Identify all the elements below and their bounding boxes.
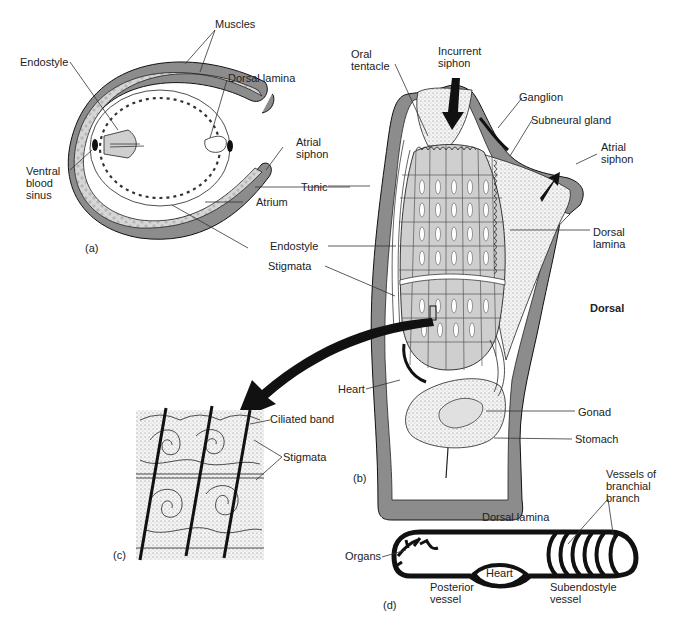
label-dorsal-lamina-b-2: lamina (593, 238, 626, 250)
label-vessels-2: branchial (606, 480, 651, 492)
label-posterior-vessel-2: vessel (430, 593, 461, 605)
label-dorsal-lamina-d: Dorsal lamina (482, 511, 550, 523)
panel-tag-c: (c) (113, 549, 126, 561)
label-atrial-siphon-a-2: siphon (296, 148, 328, 160)
label-incurrent-siphon-2: siphon (438, 57, 470, 69)
label-incurrent-siphon-1: Incurrent (438, 45, 481, 57)
label-heart-b: Heart (338, 383, 365, 395)
label-endostyle-a: Endostyle (20, 56, 68, 68)
label-dorsal-lamina-a: Dorsal lamina (228, 72, 296, 84)
label-heart-d: Heart (486, 567, 513, 579)
label-ciliated-band: Ciliated band (270, 413, 334, 425)
pharyngeal-basket (392, 140, 505, 370)
label-ventral-blood-sinus-3: sinus (26, 189, 52, 201)
panel-c-stigmata-detail: Ciliated band Stigmata (c) (113, 406, 334, 561)
label-oral-tentacle-2: tentacle (351, 60, 390, 72)
label-dorsal-lamina-b-1: Dorsal (593, 226, 625, 238)
label-organs: Organs (345, 550, 382, 562)
dorsal-lamina-a (205, 136, 227, 152)
label-muscles: Muscles (215, 18, 256, 30)
label-endostyle-b: Endostyle (270, 240, 318, 252)
panel-tag-b: (b) (353, 472, 366, 484)
label-dorsal-orientation: Dorsal (590, 302, 624, 314)
label-vessels-1: Vessels of (606, 468, 657, 480)
label-stomach: Stomach (575, 433, 618, 445)
panel-b-whole-animal: Oral tentacle Incurrent siphon Ganglion … (236, 45, 633, 520)
label-atrium: Atrium (256, 196, 288, 208)
label-vessels-3: branch (606, 492, 640, 504)
label-subendostyle-vessel-2: vessel (550, 593, 581, 605)
label-posterior-vessel-1: Posterior (430, 581, 474, 593)
label-oral-tentacle-1: Oral (351, 48, 372, 60)
panel-tag-a: (a) (85, 242, 98, 254)
label-ventral-blood-sinus-2: blood (26, 177, 53, 189)
label-atrial-siphon-b-2: siphon (601, 153, 633, 165)
label-atrial-siphon-a-1: Atrial (296, 136, 321, 148)
ventral-blood-sinus (92, 139, 98, 151)
label-stigmata-b: Stigmata (268, 260, 312, 272)
label-tunic: Tunic (301, 181, 328, 193)
panel-tag-d: (d) (383, 599, 396, 611)
label-subendostyle-vessel-1: Subendostyle (550, 581, 617, 593)
label-ventral-blood-sinus-1: Ventral (26, 165, 60, 177)
label-stigmata-c: Stigmata (283, 451, 327, 463)
label-ganglion: Ganglion (519, 91, 563, 103)
panel-a-cross-section: Muscles Endostyle Dorsal lamina Atrial s… (20, 18, 350, 254)
tunicate-anatomy-diagram: Muscles Endostyle Dorsal lamina Atrial s… (0, 0, 676, 626)
label-atrial-siphon-b-1: Atrial (601, 141, 626, 153)
label-subneural-gland: Subneural gland (531, 114, 611, 126)
label-gonad: Gonad (578, 406, 611, 418)
